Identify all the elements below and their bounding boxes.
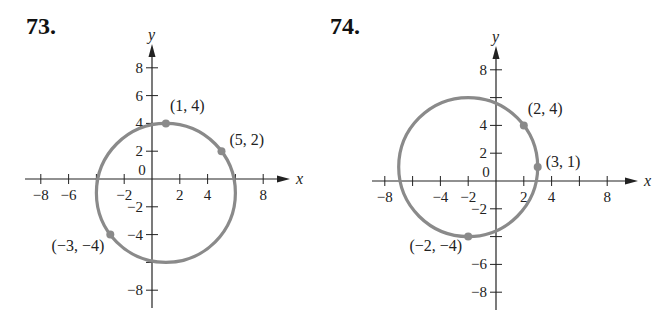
data-point	[464, 233, 472, 241]
y-tick-label: 6	[136, 88, 144, 104]
x-tick-label: −6	[61, 187, 77, 203]
x-tick-label: −4	[432, 189, 448, 205]
y-tick-label: 2	[136, 143, 144, 159]
point-label: (1, 4)	[170, 97, 205, 115]
data-point	[218, 147, 226, 155]
point-label: (3, 1)	[546, 153, 581, 171]
graph-74: 74. xy−8−4−2248842−2−6−80(2, 4)(3, 1)(−2…	[330, 0, 667, 333]
y-tick-label: −4	[127, 227, 143, 243]
y-axis-arrow-icon	[493, 46, 500, 59]
y-axis-arrow-icon	[149, 44, 156, 57]
y-tick-label: 8	[136, 60, 144, 76]
x-tick-label: 8	[603, 189, 611, 205]
y-tick-label: −6	[471, 256, 487, 272]
y-tick-label: −2	[127, 199, 143, 215]
x-tick-label: 8	[259, 187, 267, 203]
y-axis-label: y	[146, 26, 156, 44]
x-axis-arrow-icon	[625, 178, 638, 185]
point-label: (5, 2)	[230, 131, 265, 149]
x-tick-label: −8	[33, 187, 49, 203]
y-tick-label: −2	[471, 201, 487, 217]
point-label: (2, 4)	[528, 100, 563, 118]
origin-label: 0	[482, 164, 490, 180]
x-tick-label: 2	[176, 187, 184, 203]
y-tick-label: −8	[471, 284, 487, 300]
y-tick-label: 4	[480, 117, 488, 133]
data-point	[534, 163, 542, 171]
graph-73: 73. xy−8−6−22488642−2−4−80(1, 4)(5, 2)(−…	[0, 0, 330, 333]
origin-label: 0	[138, 162, 146, 178]
data-point	[106, 231, 114, 239]
data-point	[162, 119, 170, 127]
point-label: (−2, −4)	[409, 237, 462, 255]
x-tick-label: −8	[377, 189, 393, 205]
circle-curve	[399, 98, 538, 237]
x-tick-label: 4	[548, 189, 556, 205]
x-axis-label: x	[295, 170, 303, 187]
y-tick-label: −8	[127, 282, 143, 298]
data-point	[520, 121, 528, 129]
coordinate-plane: xy−8−4−2248842−2−6−80(2, 4)(3, 1)(−2, −4…	[330, 0, 667, 333]
y-tick-label: 2	[480, 145, 488, 161]
y-axis-label: y	[490, 28, 500, 46]
x-tick-label: 4	[204, 187, 212, 203]
x-axis-label: x	[643, 172, 651, 189]
point-label: (−3, −4)	[52, 237, 105, 255]
coordinate-plane: xy−8−6−22488642−2−4−80(1, 4)(5, 2)(−3, −…	[0, 0, 330, 333]
x-axis-arrow-icon	[277, 176, 290, 183]
y-tick-label: 8	[480, 62, 488, 78]
